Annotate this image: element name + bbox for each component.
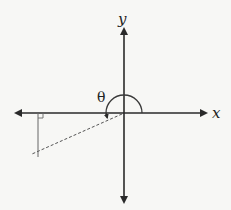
terminal-side [32,114,122,154]
coordinate-diagram: y x θ [0,0,231,210]
theta-label: θ [97,89,105,105]
diagram-canvas: y x θ [0,0,231,210]
y-axis-label: y [117,10,127,28]
x-axis-label: x [212,104,221,122]
